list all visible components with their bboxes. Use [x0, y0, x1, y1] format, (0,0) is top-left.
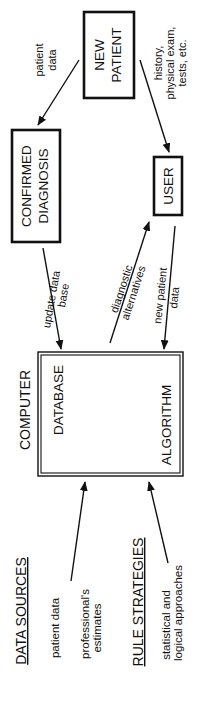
confirmed-diagnosis-label-line2: DIAGNOSIS: [36, 148, 51, 223]
computer-title: COMPUTER: [17, 370, 33, 450]
edge-label-newdata-1: new patient: [151, 267, 169, 324]
data-sources-group: DATA SOURCES patient data professional's…: [13, 557, 103, 665]
new-patient-label-line2: PATIENT: [109, 27, 124, 82]
rule-strategies-heading: RULE STRATEGIES: [130, 538, 146, 667]
data-source-item: patient data: [49, 597, 61, 658]
new-patient-label-line1: NEW: [92, 39, 107, 71]
rule-strategies-group: RULE STRATEGIES statistical and logical …: [130, 538, 184, 667]
rule-strategy-item: statistical and: [160, 590, 172, 660]
edge-new-patient-data: new patient data: [151, 226, 181, 349]
data-source-item: professional's: [79, 589, 91, 659]
edge-update-database: update data base: [40, 248, 71, 349]
algorithm-label: ALGORITHM: [159, 385, 174, 465]
user-label: USER: [161, 167, 176, 205]
user-node: USER: [154, 157, 182, 215]
edge-label-history-3: tests, etc.: [176, 39, 188, 86]
data-sources-heading: DATA SOURCES: [13, 557, 29, 665]
edge-label-history-2: physical exam,: [164, 27, 176, 100]
edge-diagnostic-alternatives: diagnostic alternatives: [108, 222, 149, 343]
arrow-icon: [149, 482, 168, 563]
computer-node: COMPUTER DATABASE ALGORITHM: [17, 352, 183, 476]
data-source-item: estimates: [91, 603, 103, 652]
edge-label-patient-data-1: patient: [33, 43, 45, 76]
rule-strategy-item: logical approaches: [172, 565, 184, 661]
arrow-icon: [71, 482, 85, 581]
confirmed-diagnosis-label-line1: CONFIRMED: [19, 145, 34, 227]
database-label: DATABASE: [51, 365, 66, 435]
edge-history: history, physical exam, tests, etc.: [140, 27, 188, 152]
edge-label-history-1: history,: [152, 46, 164, 81]
edge-label-newdata-2: data: [167, 285, 181, 308]
edge-patient-data: patient data: [33, 43, 79, 125]
edge-label-patient-data-2: data: [46, 48, 58, 70]
confirmed-diagnosis-node: CONFIRMED DIAGNOSIS: [12, 130, 60, 242]
diagnosis-flow-diagram: NEW PATIENT CONFIRMED DIAGNOSIS USER COM…: [0, 0, 200, 707]
new-patient-node: NEW PATIENT: [84, 12, 134, 98]
